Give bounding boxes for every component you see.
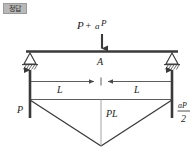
support-right-triangle: [166, 53, 178, 64]
support-right-hatching: [165, 65, 179, 70]
point-a-label: A: [96, 56, 104, 67]
support-right: [164, 53, 180, 70]
load-label-P1: P: [76, 19, 84, 31]
load-label-coefficient: a: [95, 21, 100, 31]
applied-load-label: P + a P: [76, 18, 107, 31]
figure-root: 정답 P + a P A: [0, 0, 193, 152]
reaction-right-numerator: aP: [178, 101, 187, 110]
moment-value-label: PL: [105, 108, 118, 119]
reaction-right-label: aP 2: [178, 101, 191, 124]
reaction-right-denominator: 2: [181, 113, 186, 124]
dimension-right-label: L: [133, 84, 140, 95]
support-left-hatching: [23, 65, 37, 70]
support-left: [22, 53, 38, 70]
load-label-P2: P: [100, 18, 107, 28]
moment-left-slope: [30, 100, 101, 146]
moment-right-slope: [101, 100, 172, 146]
moment-diagram: PL: [30, 100, 172, 147]
load-label-operator: +: [86, 20, 92, 31]
reaction-left-label: P: [16, 104, 23, 115]
dimension-left-label: L: [56, 84, 63, 95]
beam-moment-diagram: P + a P A: [0, 0, 193, 152]
dimension-line: L L: [31, 78, 171, 96]
support-left-triangle: [24, 53, 36, 64]
